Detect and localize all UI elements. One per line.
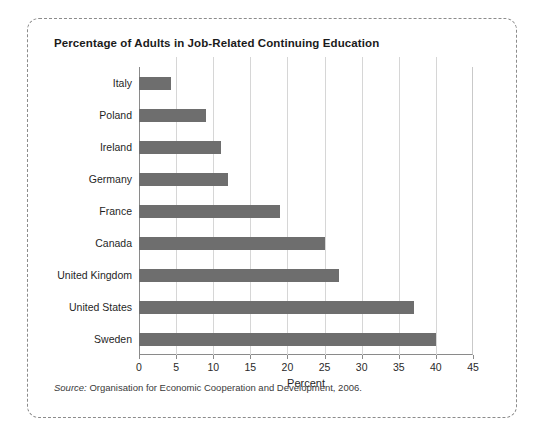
category-label: Poland bbox=[99, 110, 132, 121]
category-label: France bbox=[99, 206, 132, 217]
bar-row: Italy bbox=[139, 67, 473, 99]
bar-row: United States bbox=[139, 291, 473, 323]
x-tick-mark bbox=[436, 355, 437, 359]
bar-row: Canada bbox=[139, 227, 473, 259]
bar-row: Sweden bbox=[139, 323, 473, 355]
x-tick-mark bbox=[176, 355, 177, 359]
bar-row: France bbox=[139, 195, 473, 227]
category-label: Canada bbox=[95, 238, 132, 249]
x-tick-label: 40 bbox=[430, 361, 442, 373]
category-label: Italy bbox=[113, 78, 132, 89]
bar bbox=[139, 77, 171, 90]
x-tick-label: 30 bbox=[356, 361, 368, 373]
bar bbox=[139, 141, 221, 154]
category-label: Sweden bbox=[94, 334, 132, 345]
source-label: Source: bbox=[54, 382, 87, 393]
category-label: Germany bbox=[89, 174, 132, 185]
source-note: Source: Organisation for Economic Cooper… bbox=[54, 382, 362, 393]
chart-title: Percentage of Adults in Job-Related Cont… bbox=[54, 37, 379, 49]
bar-row: Ireland bbox=[139, 131, 473, 163]
category-label: United Kingdom bbox=[57, 270, 132, 281]
x-tick-label: 20 bbox=[282, 361, 294, 373]
bar bbox=[139, 237, 325, 250]
x-tick-mark bbox=[362, 355, 363, 359]
plot-region: 051015202530354045 ItalyPolandIrelandGer… bbox=[139, 67, 473, 355]
x-tick-label: 25 bbox=[319, 361, 331, 373]
x-tick-mark bbox=[287, 355, 288, 359]
x-tick-mark bbox=[399, 355, 400, 359]
bar bbox=[139, 205, 280, 218]
bar-row: Germany bbox=[139, 163, 473, 195]
figure-panel: Percentage of Adults in Job-Related Cont… bbox=[27, 18, 517, 418]
x-tick-label: 45 bbox=[467, 361, 479, 373]
x-tick-label: 5 bbox=[173, 361, 179, 373]
bar-row: United Kingdom bbox=[139, 259, 473, 291]
bar bbox=[139, 333, 436, 346]
bar bbox=[139, 269, 339, 282]
category-label: United States bbox=[69, 302, 132, 313]
source-text: Organisation for Economic Cooperation an… bbox=[87, 382, 362, 393]
x-tick-label: 0 bbox=[136, 361, 142, 373]
x-tick-mark bbox=[250, 355, 251, 359]
bar bbox=[139, 301, 414, 314]
x-tick-mark bbox=[213, 355, 214, 359]
bar bbox=[139, 173, 228, 186]
x-tick-label: 35 bbox=[393, 361, 405, 373]
x-tick-mark bbox=[139, 355, 140, 359]
x-tick-label: 15 bbox=[244, 361, 256, 373]
bar bbox=[139, 109, 206, 122]
x-tick-label: 10 bbox=[207, 361, 219, 373]
bar-row: Poland bbox=[139, 99, 473, 131]
x-tick-mark bbox=[473, 355, 474, 359]
x-tick-mark bbox=[325, 355, 326, 359]
category-label: Ireland bbox=[100, 142, 132, 153]
